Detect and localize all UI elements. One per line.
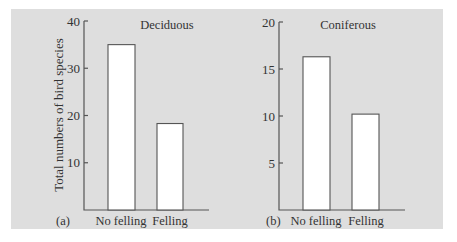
y-tick-label: 20 bbox=[67, 108, 80, 123]
y-tick-label: 40 bbox=[67, 14, 80, 29]
y-axis-label: Total numbers of bird species bbox=[51, 38, 66, 192]
x-category-label: Felling bbox=[348, 214, 384, 228]
x-category-label: No felling bbox=[290, 214, 342, 228]
bar-no-felling bbox=[303, 57, 330, 210]
bar-no-felling bbox=[108, 45, 135, 210]
panel-title: Deciduous bbox=[140, 18, 194, 32]
axis-lines bbox=[279, 22, 405, 210]
panel-deciduous: 10203040No fellingFellingDeciduous(a) bbox=[56, 14, 209, 229]
panel-title: Coniferous bbox=[320, 18, 376, 32]
y-tick-label: 10 bbox=[262, 109, 275, 124]
bar-chart-figure: Total numbers of bird species 10203040No… bbox=[0, 0, 457, 242]
y-tick-label: 5 bbox=[269, 156, 276, 171]
panel-coniferous: 5101520No fellingFellingConiferous(b) bbox=[262, 15, 405, 229]
panel-label: (b) bbox=[266, 214, 281, 228]
y-tick-label: 20 bbox=[262, 15, 275, 30]
y-tick-label: 30 bbox=[67, 61, 80, 76]
bar-felling bbox=[352, 114, 379, 210]
panel-label: (a) bbox=[56, 214, 70, 228]
x-category-label: Felling bbox=[152, 214, 188, 228]
y-tick-label: 15 bbox=[262, 62, 275, 77]
x-category-label: No felling bbox=[95, 214, 147, 228]
axis-lines bbox=[84, 21, 209, 210]
bar-felling bbox=[157, 124, 183, 210]
y-tick-label: 10 bbox=[67, 155, 80, 170]
